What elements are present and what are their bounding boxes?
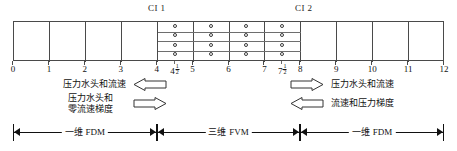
axis-tick-label: 7: [262, 64, 267, 74]
column-divider: [121, 22, 122, 62]
column-divider: [49, 22, 50, 62]
left-arrow-outline-icon-a: [133, 78, 167, 91]
cell-node-circle: [280, 43, 284, 47]
cell-node-circle: [244, 52, 248, 56]
cell-node-circle: [173, 24, 177, 28]
axis-tick-label: 5: [190, 64, 195, 74]
column-divider: [157, 22, 158, 62]
axis-tick-label: 1: [47, 64, 52, 74]
coupled-1d-3d-mesh-diagram: CI 1 CI 2 0123456789101112412712 压力水头和流速…: [0, 0, 457, 151]
axis-tick-label: 12: [440, 64, 449, 74]
interface-label-ci1: CI 1: [148, 3, 165, 13]
bracket-arrowhead-right: [437, 128, 443, 136]
bracket-end-cap: [443, 124, 444, 141]
cell-node-circle: [173, 43, 177, 47]
column-divider: [85, 22, 86, 62]
bracket-arrowhead-left: [158, 128, 164, 136]
axis-tick-label: 8: [298, 64, 303, 74]
annotation-text-left-top: 压力水头和流速: [63, 79, 126, 90]
annotation-text-left-bottom: 压力水头和零流速梯度: [68, 93, 113, 115]
column-divider: [300, 22, 301, 62]
fine-row-divider: [158, 41, 302, 42]
cell-node-circle: [173, 33, 177, 37]
column-divider: [372, 22, 373, 62]
bracket-label: 一维 FDM: [349, 125, 395, 138]
bracket-arrowhead-left: [301, 128, 307, 136]
axis-tick-label: 3: [119, 64, 124, 74]
left-arrow-outline-icon-b: [290, 97, 324, 110]
axis-half-tick-label: 712: [278, 64, 287, 76]
bracket-arrowhead-left: [14, 128, 20, 136]
cell-node-circle: [173, 52, 177, 56]
column-divider: [264, 22, 265, 62]
cell-node-circle: [209, 33, 213, 37]
column-divider: [229, 22, 230, 62]
interface-label-ci2: CI 2: [295, 3, 312, 13]
cell-node-circle: [244, 24, 248, 28]
annotation-text-right-top: 压力水头和流速: [331, 79, 394, 90]
bracket-label: 三维 FVM: [205, 125, 251, 138]
cell-node-circle: [209, 52, 213, 56]
cell-node-circle: [280, 33, 284, 37]
axis-tick-label: 0: [11, 64, 16, 74]
axis-tick-label: 2: [83, 64, 88, 74]
axis-tick-label: 11: [404, 64, 413, 74]
bracket-arrowhead-right: [293, 128, 299, 136]
column-divider: [408, 22, 409, 62]
cell-node-circle: [244, 33, 248, 37]
cell-node-circle: [209, 24, 213, 28]
cell-node-circle: [280, 24, 284, 28]
mesh-strip: [13, 21, 444, 61]
cell-node-circle: [209, 43, 213, 47]
axis-tick-label: 6: [226, 64, 231, 74]
dimension-brackets: 一维 FDM三维 FVM一维 FDM: [0, 122, 457, 146]
column-divider: [193, 22, 194, 62]
axis-ticks: 0123456789101112412712: [0, 61, 457, 77]
fine-row-divider: [158, 32, 302, 33]
axis-tick-label: 9: [334, 64, 339, 74]
axis-tick-label: 4: [154, 64, 159, 74]
axis-half-tick-label: 412: [170, 64, 179, 76]
fine-row-divider: [158, 51, 302, 52]
column-divider: [336, 22, 337, 62]
right-arrow-outline-icon-b: [290, 78, 324, 91]
right-arrow-outline-icon-a: [133, 97, 167, 110]
cell-node-circle: [280, 52, 284, 56]
bracket-label: 一维 FDM: [62, 125, 108, 138]
bracket-arrowhead-right: [150, 128, 156, 136]
annotation-text-right-bottom: 流速和压力梯度: [331, 98, 394, 109]
cell-node-circle: [244, 43, 248, 47]
axis-tick-label: 10: [368, 64, 377, 74]
